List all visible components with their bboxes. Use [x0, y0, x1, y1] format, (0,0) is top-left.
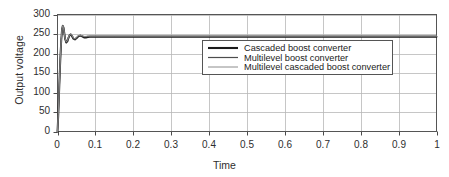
legend-label: Multilevel cascaded boost converter — [244, 62, 390, 72]
axis-ticks — [54, 16, 438, 136]
chart-figure: Output voltage Time 300 250 200 150 100 … — [0, 0, 449, 177]
chart-legend: Cascaded boost converter Multilevel boos… — [203, 41, 393, 75]
plot-svg: Cascaded boost converter Multilevel boos… — [0, 0, 449, 177]
legend-label: Cascaded boost converter — [244, 43, 351, 53]
legend-label: Multilevel boost converter — [244, 53, 348, 63]
